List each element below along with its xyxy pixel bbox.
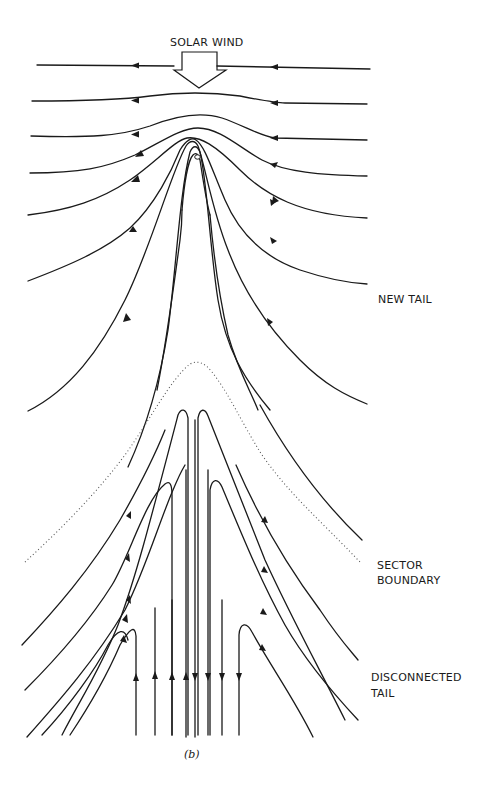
field-line-upstream-2	[32, 93, 367, 106]
disconnected-tail-right-hook-2	[210, 481, 358, 735]
label-sector-boundary-2: BOUNDARY	[377, 573, 440, 588]
panel-label: (b)	[184, 748, 200, 761]
field-line-tail-1	[28, 138, 367, 218]
sector-boundary-line	[25, 362, 360, 562]
solar-wind-arrow-icon	[174, 52, 226, 88]
disconnected-tail-right-hook-3	[239, 625, 313, 737]
label-solar-wind: SOLAR WIND	[170, 35, 244, 50]
label-sector-boundary-1: SECTOR	[377, 558, 423, 573]
field-line-tail-4	[128, 147, 270, 467]
disconnected-tail-right-hook-1	[198, 410, 345, 735]
label-new-tail: NEW TAIL	[378, 292, 432, 307]
disconnected-tail-left-outer	[22, 430, 185, 737]
disconnected-tail-left-hook-1	[62, 410, 188, 735]
field-line-tail-3	[28, 142, 367, 412]
comet-nucleus-icon	[195, 155, 201, 159]
field-line-upstream-4	[30, 128, 367, 176]
label-disconnected-tail-2: TAIL	[371, 686, 395, 701]
label-disconnected-tail-1: DISCONNECTED	[371, 670, 462, 685]
disconnected-tail-left-hook-4	[42, 632, 128, 735]
disconnected-tail-left-hook-3	[70, 630, 136, 735]
